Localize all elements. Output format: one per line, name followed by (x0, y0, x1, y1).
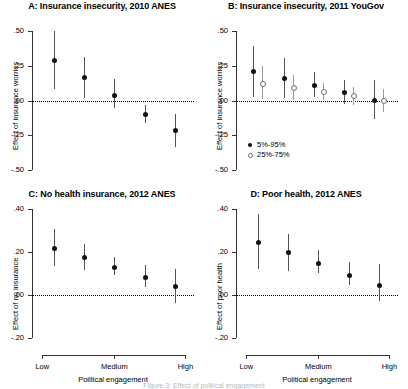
panel-b: B: Insurance insecurity, 2011 YouGov Eff… (204, 0, 408, 195)
y-tick-label: -.50 (204, 165, 228, 174)
panel-b-title: B: Insurance insecurity, 2011 YouGov (204, 1, 408, 11)
x-tick-label: High (160, 362, 210, 371)
x-tick (246, 355, 247, 359)
y-tick-label: -.25 (0, 130, 24, 139)
filled-circle-icon (248, 143, 252, 147)
y-tick-label: .00 (204, 96, 228, 105)
panel-a-title: A: Insurance insecurity, 2010 ANES (0, 1, 204, 11)
y-tick (232, 66, 236, 67)
data-point (372, 98, 377, 103)
y-tick-label: .20 (204, 247, 228, 256)
y-tick (28, 252, 32, 253)
x-tick (42, 355, 43, 359)
y-tick (232, 31, 236, 32)
y-tick-label: .00 (0, 290, 24, 299)
data-point (112, 265, 117, 270)
x-tick-label: Medium (89, 362, 139, 371)
panel-d-title: D: Poor health, 2012 ANES (204, 189, 408, 199)
y-tick-label: .40 (0, 204, 24, 213)
y-tick-label: -.20 (0, 333, 24, 342)
y-tick-label: .50 (204, 26, 228, 35)
zero-reference-line (32, 101, 194, 102)
data-point (347, 273, 352, 278)
data-point (312, 83, 317, 88)
data-point (112, 93, 117, 98)
y-tick-label: .20 (0, 247, 24, 256)
y-tick (28, 209, 32, 210)
data-point (82, 255, 87, 260)
y-tick-label: -.50 (0, 165, 24, 174)
data-point (256, 240, 261, 245)
y-tick-label: .00 (0, 96, 24, 105)
figure-caption: Figure 3: Effect of political engagement (0, 382, 408, 389)
panel-c-plot-area: .40.20.00-.20LowMediumHigh (32, 209, 194, 338)
y-tick (28, 31, 32, 32)
y-tick-label: .40 (204, 204, 228, 213)
y-axis-line (236, 209, 237, 338)
x-tick (185, 355, 186, 359)
zero-reference-line (32, 295, 194, 296)
legend-label-5-95: 5%-95% (257, 140, 285, 149)
data-point (282, 76, 287, 81)
data-point (260, 81, 266, 87)
data-point (381, 98, 387, 104)
y-tick-label: -.25 (204, 130, 228, 139)
x-tick (114, 355, 115, 359)
y-tick (28, 135, 32, 136)
panel-d-plot-area: .40.20.00-.20LowMediumHigh (236, 209, 398, 338)
data-point (173, 284, 178, 289)
y-tick-label: .00 (204, 290, 228, 299)
figure-container: A: Insurance insecurity, 2010 ANES Effec… (0, 0, 408, 389)
y-tick (28, 170, 32, 171)
y-tick (232, 338, 236, 339)
x-tick-label: Low (221, 362, 271, 371)
panel-c-title: C: No health insurance, 2012 ANES (0, 189, 204, 199)
y-tick (28, 338, 32, 339)
x-tick-label: Medium (293, 362, 343, 371)
x-tick (318, 355, 319, 359)
panel-d: D: Poor health, 2012 ANES Effect of poor… (204, 190, 408, 389)
panel-a: A: Insurance insecurity, 2010 ANES Effec… (0, 0, 204, 195)
y-tick (232, 135, 236, 136)
data-point (82, 75, 87, 80)
data-point (321, 89, 327, 95)
data-point (52, 58, 57, 63)
y-axis-line (32, 209, 33, 338)
y-tick-label: .25 (204, 61, 228, 70)
data-point (286, 250, 291, 255)
data-point (342, 90, 347, 95)
y-tick (28, 66, 32, 67)
data-point (351, 93, 357, 99)
zero-reference-line (236, 295, 398, 296)
y-tick-label: -.20 (204, 333, 228, 342)
data-point (143, 112, 148, 117)
y-tick-label: .50 (0, 26, 24, 35)
x-tick-label: Low (17, 362, 67, 371)
hollow-circle-icon (248, 153, 253, 158)
data-point (377, 283, 382, 288)
data-point (316, 261, 321, 266)
legend-label-25-75: 25%-75% (257, 150, 290, 159)
data-point (251, 69, 256, 74)
data-point (143, 275, 148, 280)
panel-a-plot-area: .50.25.00-.25-.50 (32, 31, 194, 170)
x-tick-label: High (364, 362, 408, 371)
panel-c: C: No health insurance, 2012 ANES Effect… (0, 190, 204, 389)
data-point (173, 128, 178, 133)
y-tick (232, 209, 236, 210)
x-tick (389, 355, 390, 359)
data-point (52, 246, 57, 251)
data-point (291, 85, 297, 91)
y-tick-label: .25 (0, 61, 24, 70)
y-tick (232, 170, 236, 171)
y-tick (232, 252, 236, 253)
